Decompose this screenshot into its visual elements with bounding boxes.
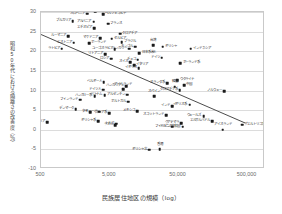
- data-point-label: ベルギー人: [87, 80, 102, 84]
- data-point: [97, 120, 100, 123]
- data-point-label: デンマーク: [59, 107, 74, 111]
- data-point: [114, 124, 117, 127]
- data-point: [108, 112, 111, 115]
- data-point-label: タイ: [82, 110, 88, 114]
- data-point-label: 韓国: [172, 80, 178, 84]
- data-point: [88, 42, 91, 45]
- data-point: [223, 90, 226, 93]
- x-tick-label: 500: [36, 171, 45, 177]
- gridline: [41, 71, 263, 72]
- data-point: [161, 56, 164, 59]
- data-point: [129, 61, 132, 64]
- data-point: [111, 37, 114, 40]
- data-point-label: オランダ系: [150, 81, 165, 85]
- data-point-label: メキシコ: [123, 109, 135, 113]
- data-point-label: ルーマニア: [51, 34, 66, 38]
- y-tick-label: 10: [14, 87, 36, 93]
- data-point: [165, 114, 168, 117]
- data-point-label: クロアチア系: [160, 88, 178, 92]
- data-point: [102, 88, 105, 91]
- data-point: [134, 45, 137, 48]
- data-point: [222, 128, 225, 131]
- data-point: [67, 35, 70, 38]
- data-point-label: シリア: [40, 120, 45, 124]
- data-point-label: エストニア: [57, 41, 72, 45]
- gridline: [41, 149, 263, 150]
- y-tick-label: -10: [14, 165, 36, 171]
- data-point-label: プエルトリコ系: [244, 123, 264, 127]
- data-point-label: アルゼンチン: [107, 93, 125, 97]
- data-point: [181, 125, 184, 128]
- data-point-label: スペイン: [148, 90, 160, 94]
- plot-area: スロベニアボスニアヘルツェゴビナブルガリアアルバニアフランスエチオピアクロアチア…: [40, 11, 264, 168]
- data-point: [74, 108, 77, 111]
- data-point-label: アルバニア: [77, 20, 92, 24]
- y-tick-label: 15: [14, 67, 36, 73]
- x-axis-title: 民族居住地区の規模（log）: [0, 193, 282, 202]
- data-point: [148, 148, 151, 151]
- x-tick-label: 500,000: [237, 171, 257, 177]
- data-point-label: 中国: [186, 83, 192, 87]
- data-point-label: エチオピア: [77, 26, 92, 30]
- y-tick-label: 5: [14, 106, 36, 112]
- data-point: [153, 95, 156, 98]
- data-point: [189, 47, 192, 50]
- data-point: [93, 27, 96, 30]
- data-point: [138, 67, 141, 70]
- data-point-label: 台湾: [150, 39, 156, 43]
- data-point-label: ギリシャ系: [81, 119, 96, 123]
- data-point: [89, 111, 92, 114]
- data-point-label: ギリシャ北: [132, 148, 147, 152]
- data-point-label: ロシア系: [95, 111, 107, 115]
- data-point: [103, 94, 106, 97]
- scatter-chart: 昭和50年代における隔離さの改善度（％） スロベニアボスニアヘルツェゴビナブルガ…: [0, 0, 282, 214]
- x-tick-label: 5,000: [102, 171, 116, 177]
- data-point-label: ギリシャ: [165, 45, 177, 49]
- data-point: [122, 88, 125, 91]
- data-point-label: ポーランド系: [183, 62, 201, 66]
- y-axis-title: 昭和50年代における隔離さの改善度（％）: [2, 18, 14, 168]
- data-point: [107, 22, 110, 25]
- data-point: [79, 98, 82, 101]
- data-point-label: スイス: [119, 60, 128, 64]
- y-tick-label: 0: [14, 126, 36, 132]
- data-point: [166, 82, 169, 85]
- data-point: [92, 21, 95, 24]
- data-point-label: ドイツ人: [89, 88, 101, 92]
- data-point: [179, 62, 182, 65]
- data-point: [119, 32, 122, 35]
- data-point: [152, 44, 155, 47]
- data-point-label: ブルガリア: [56, 20, 71, 24]
- data-point-label: インドネシア: [193, 47, 211, 51]
- data-point-label: イギリス系: [173, 103, 188, 107]
- data-point: [138, 52, 141, 55]
- data-point-label: ドイツ: [151, 56, 160, 60]
- data-point-label: イギリス: [125, 66, 137, 70]
- data-point: [72, 20, 75, 23]
- data-point-label: スロベニア: [70, 12, 85, 16]
- data-point-label: インド: [161, 104, 170, 108]
- data-point-label: ノルウェー: [207, 89, 222, 93]
- data-point: [46, 121, 49, 124]
- data-point: [171, 125, 174, 128]
- data-point-label: ポーランド: [91, 41, 106, 45]
- data-point-label: アイルランド: [114, 83, 132, 87]
- gridline: [41, 110, 263, 111]
- y-tick-label: 25: [14, 28, 36, 34]
- data-point-label: ラトビア: [48, 47, 60, 51]
- data-point: [110, 57, 113, 60]
- data-point: [137, 59, 140, 62]
- data-point-label: ラオス: [104, 124, 113, 128]
- gridline: [41, 130, 263, 131]
- data-point: [93, 95, 96, 98]
- data-point: [162, 45, 165, 48]
- data-point-label: フランス: [110, 22, 122, 26]
- data-point: [94, 11, 97, 13]
- data-point: [158, 148, 161, 151]
- data-point-label: ハンガリー: [112, 47, 127, 51]
- data-point: [86, 12, 89, 15]
- data-point: [178, 89, 181, 92]
- y-tick-label: -5: [14, 145, 36, 151]
- data-point-label: ロシア: [100, 57, 109, 61]
- x-tick-label: 50,000: [169, 171, 186, 177]
